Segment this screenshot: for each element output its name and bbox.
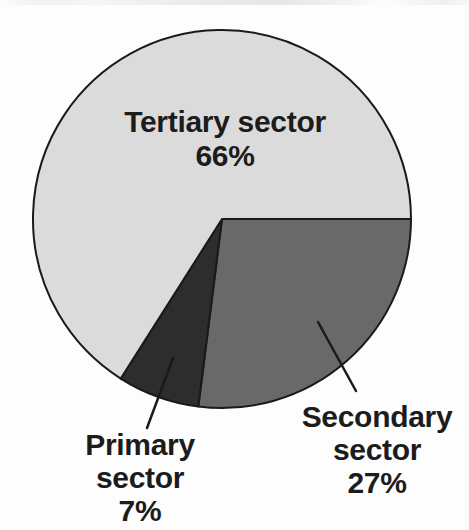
tertiary-sector-name: Tertiary sector <box>102 105 348 139</box>
secondary-sector-label: Secondary sector 27% <box>300 400 454 499</box>
scanned-pie-chart-page: Tertiary sector 66% Primary sector 7% Se… <box>0 0 469 530</box>
primary-sector-label: Primary sector 7% <box>38 428 242 527</box>
secondary-sector-percentage: 27% <box>300 466 454 499</box>
primary-sector-percentage: 7% <box>38 494 242 527</box>
secondary-sector-name: Secondary sector <box>300 400 454 466</box>
slices-group <box>33 30 411 408</box>
tertiary-sector-label: Tertiary sector 66% <box>102 105 348 173</box>
pie-slice-secondary-sector <box>198 219 411 408</box>
tertiary-sector-percentage: 66% <box>102 139 348 173</box>
primary-sector-name: Primary sector <box>38 428 242 494</box>
